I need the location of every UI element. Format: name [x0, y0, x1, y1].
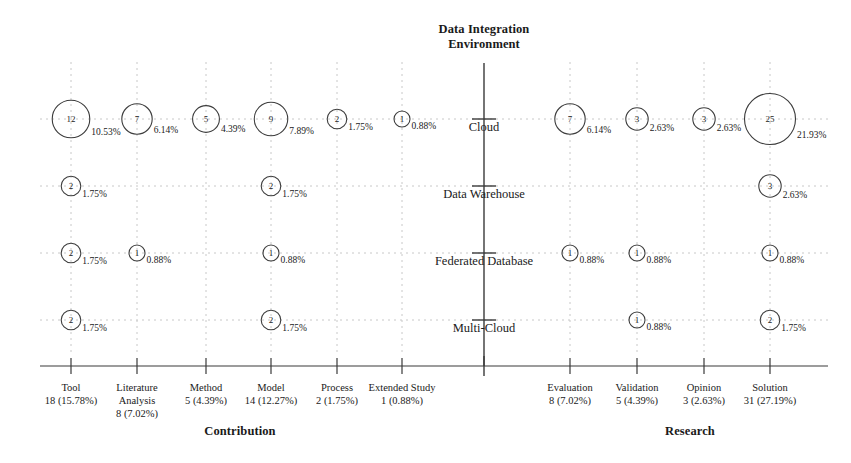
bubble-percent-label: 1.75%	[781, 323, 806, 333]
bubble-percent-label: 1.75%	[82, 323, 107, 333]
bubble-point[interactable]: 10.88%	[263, 245, 305, 265]
x-category-name: Extended Study	[342, 381, 462, 394]
bubble-point[interactable]: 21.75%	[261, 176, 307, 199]
bubble-value-label: 1	[135, 248, 140, 258]
chart-title-line2: Environment	[448, 37, 520, 51]
bubble-point[interactable]: 21.75%	[61, 310, 107, 333]
bubble-value-label: 2	[269, 181, 274, 191]
y-row-label[interactable]: Data Warehouse	[364, 187, 604, 202]
vertical-gridlines	[71, 62, 770, 355]
bubble-point[interactable]: 32.63%	[693, 108, 742, 133]
bubble-percent-label: 0.88%	[647, 255, 672, 265]
y-row-label[interactable]: Cloud	[364, 120, 604, 135]
bubble-value-label: 25	[766, 114, 776, 124]
bubble-point[interactable]: 10.88%	[129, 245, 171, 265]
bubble-matrix-chart: 1210.53%76.14%54.39%97.89%21.75%10.88%76…	[0, 0, 851, 463]
bubble-percent-label: 10.53%	[91, 127, 120, 137]
x-axis-line	[40, 356, 828, 376]
bubble-percent-label: 6.14%	[154, 125, 179, 135]
bubble-value-label: 2	[335, 114, 340, 124]
horizontal-gridlines	[40, 119, 828, 320]
bubble-value-label: 2	[768, 315, 773, 325]
bubble-percent-label: 0.88%	[281, 255, 306, 265]
axis-title-research: Research	[590, 424, 790, 439]
bubble-percent-label: 2.63%	[650, 123, 675, 133]
bubble-point[interactable]: 10.88%	[629, 245, 671, 265]
bubble-point[interactable]: 21.75%	[61, 243, 107, 266]
bubble-value-label: 9	[269, 114, 274, 124]
bubble-value-label: 1	[635, 315, 640, 325]
x-category-total: 8 (7.02%)	[77, 407, 197, 420]
bubble-value-label: 2	[269, 315, 274, 325]
x-category-label[interactable]: Solution31 (27.19%)	[710, 381, 830, 407]
bubble-value-label: 3	[635, 114, 640, 124]
x-category-total: 1 (0.88%)	[342, 394, 462, 407]
bubble-value-label: 3	[702, 114, 707, 124]
chart-title: Data Integration Environment	[384, 22, 584, 52]
bubble-value-label: 7	[135, 114, 140, 124]
bubble-value-label: 1	[635, 248, 640, 258]
bubble-percent-label: 0.88%	[780, 255, 805, 265]
bubble-point[interactable]: 1210.53%	[52, 100, 120, 138]
bubble-percent-label: 0.88%	[147, 255, 172, 265]
bubble-percent-label: 1.75%	[82, 256, 107, 266]
axis-title-contribution: Contribution	[140, 424, 340, 439]
x-category-total: 31 (27.19%)	[710, 394, 830, 407]
bubble-percent-label: 21.93%	[797, 130, 826, 140]
bubble-point[interactable]: 21.75%	[760, 310, 806, 333]
bubble-percent-label: 2.63%	[783, 190, 808, 200]
bubble-value-label: 2	[69, 248, 74, 258]
bubble-point[interactable]: 32.63%	[626, 108, 675, 133]
x-category-name: Solution	[710, 381, 830, 394]
bubble-point[interactable]: 54.39%	[193, 106, 246, 134]
bubble-value-label: 5	[204, 114, 209, 124]
bubble-percent-label: 1.75%	[282, 323, 307, 333]
bubble-point[interactable]: 10.88%	[629, 312, 671, 332]
y-row-label[interactable]: Multi-Cloud	[364, 321, 604, 336]
bubble-point[interactable]: 10.88%	[762, 245, 804, 265]
bubble-percent-label: 0.88%	[647, 322, 672, 332]
bubble-percent-label: 1.75%	[82, 189, 107, 199]
bubble-point[interactable]: 32.63%	[759, 175, 808, 200]
bubble-value-label: 2	[69, 315, 74, 325]
bubble-value-label: 2	[69, 181, 74, 191]
bubble-point[interactable]: 21.75%	[261, 310, 307, 333]
bubble-percent-label: 7.89%	[289, 126, 314, 136]
bubble-percent-label: 2.63%	[717, 123, 742, 133]
bubble-value-label: 12	[67, 114, 76, 124]
x-category-label[interactable]: Extended Study1 (0.88%)	[342, 381, 462, 407]
bubble-percent-label: 1.75%	[282, 189, 307, 199]
bubble-point[interactable]: 21.75%	[61, 176, 107, 199]
bubble-value-label: 1	[768, 248, 773, 258]
chart-title-line1: Data Integration	[439, 22, 530, 36]
bubble-value-label: 3	[768, 181, 773, 191]
bubble-value-label: 1	[269, 248, 274, 258]
bubble-percent-label: 4.39%	[221, 124, 246, 134]
y-row-label[interactable]: Federated Database	[364, 254, 604, 269]
